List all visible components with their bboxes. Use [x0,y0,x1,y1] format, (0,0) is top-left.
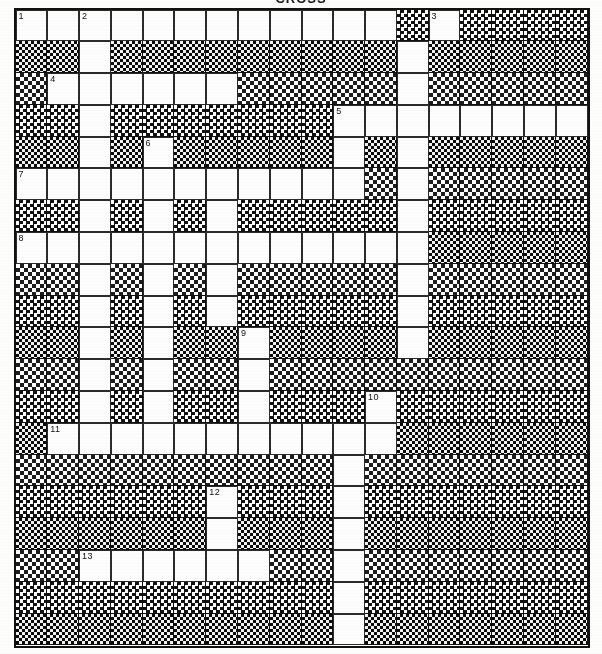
crossword-cell-open[interactable] [47,168,79,200]
crossword-cell-open[interactable] [79,327,111,359]
crossword-cell-open[interactable] [492,105,524,137]
crossword-cell-open[interactable] [238,168,270,200]
crossword-cell-open[interactable] [556,105,588,137]
crossword-cell-open[interactable] [397,327,429,359]
crossword-cell-open[interactable]: 6 [143,137,175,169]
crossword-cell-open[interactable] [206,232,238,264]
crossword-cell-open[interactable] [174,423,206,455]
crossword-cell-open[interactable] [143,232,175,264]
crossword-cell-open[interactable] [174,232,206,264]
crossword-cell-open[interactable] [174,168,206,200]
crossword-cell-open[interactable] [397,264,429,296]
crossword-cell-open[interactable] [79,423,111,455]
crossword-grid-container[interactable]: 12345678910111213 [14,8,590,648]
crossword-cell-open[interactable] [397,41,429,73]
crossword-cell-open[interactable]: 9 [238,327,270,359]
crossword-cell-open[interactable] [333,614,365,646]
crossword-cell-open[interactable]: 7 [16,168,48,200]
crossword-cell-open[interactable] [302,168,334,200]
crossword-cell-open[interactable] [111,73,143,105]
crossword-cell-open[interactable] [302,10,334,42]
crossword-cell-open[interactable] [143,73,175,105]
crossword-cell-open[interactable] [206,10,238,42]
crossword-cell-open[interactable] [206,200,238,232]
crossword-cell-open[interactable] [143,359,175,391]
crossword-cell-open[interactable] [111,423,143,455]
crossword-cell-open[interactable] [397,105,429,137]
crossword-cell-open[interactable] [333,582,365,614]
crossword-cell-open[interactable] [238,359,270,391]
crossword-cell-open[interactable] [238,550,270,582]
crossword-cell-open[interactable] [333,168,365,200]
crossword-cell-open[interactable] [365,10,397,42]
crossword-cell-open[interactable] [47,10,79,42]
crossword-cell-open[interactable] [174,10,206,42]
crossword-cell-open[interactable] [79,264,111,296]
crossword-cell-open[interactable] [333,455,365,487]
crossword-cell-open[interactable] [111,168,143,200]
crossword-cell-open[interactable]: 1 [16,10,48,42]
crossword-cell-open[interactable] [397,73,429,105]
crossword-cell-open[interactable]: 2 [79,10,111,42]
crossword-cell-open[interactable]: 11 [47,423,79,455]
crossword-cell-open[interactable] [143,264,175,296]
crossword-cell-open[interactable] [174,73,206,105]
crossword-cell-open[interactable] [143,423,175,455]
crossword-cell-open[interactable] [270,232,302,264]
crossword-cell-open[interactable]: 13 [79,550,111,582]
crossword-cell-open[interactable] [333,518,365,550]
crossword-cell-open[interactable] [206,264,238,296]
crossword-cell-open[interactable] [174,550,206,582]
crossword-cell-open[interactable] [143,391,175,423]
crossword-cell-open[interactable] [365,423,397,455]
crossword-cell-open[interactable] [47,232,79,264]
crossword-cell-open[interactable] [333,137,365,169]
crossword-cell-open[interactable] [365,232,397,264]
crossword-cell-open[interactable]: 12 [206,486,238,518]
crossword-cell-open[interactable] [206,168,238,200]
crossword-cell-open[interactable] [79,73,111,105]
crossword-cell-open[interactable] [206,73,238,105]
crossword-cell-open[interactable] [143,550,175,582]
crossword-grid[interactable]: 12345678910111213 [16,10,588,646]
crossword-cell-open[interactable] [79,391,111,423]
crossword-cell-open[interactable] [111,232,143,264]
crossword-cell-open[interactable]: 5 [333,105,365,137]
crossword-cell-open[interactable] [206,518,238,550]
crossword-cell-open[interactable] [79,232,111,264]
crossword-cell-open[interactable] [238,232,270,264]
crossword-cell-open[interactable] [397,296,429,328]
crossword-cell-open[interactable] [143,327,175,359]
crossword-cell-open[interactable] [397,200,429,232]
crossword-cell-open[interactable] [206,423,238,455]
crossword-cell-open[interactable] [79,137,111,169]
crossword-cell-open[interactable] [365,105,397,137]
crossword-cell-open[interactable] [238,10,270,42]
crossword-cell-open[interactable] [79,168,111,200]
crossword-cell-open[interactable] [524,105,556,137]
crossword-cell-open[interactable] [333,10,365,42]
crossword-cell-open[interactable] [238,423,270,455]
crossword-cell-open[interactable]: 8 [16,232,48,264]
crossword-cell-open[interactable] [79,359,111,391]
crossword-cell-open[interactable] [270,423,302,455]
crossword-cell-open[interactable] [143,200,175,232]
crossword-cell-open[interactable] [111,10,143,42]
crossword-cell-open[interactable] [333,550,365,582]
crossword-cell-open[interactable]: 10 [365,391,397,423]
crossword-cell-open[interactable] [79,200,111,232]
crossword-cell-open[interactable] [397,232,429,264]
crossword-cell-open[interactable] [429,105,461,137]
crossword-cell-open[interactable] [143,10,175,42]
crossword-cell-open[interactable] [397,168,429,200]
crossword-cell-open[interactable] [460,105,492,137]
crossword-cell-open[interactable] [206,296,238,328]
crossword-cell-open[interactable] [333,486,365,518]
crossword-cell-open[interactable] [143,296,175,328]
crossword-cell-open[interactable]: 4 [47,73,79,105]
crossword-cell-open[interactable] [270,10,302,42]
crossword-cell-open[interactable] [79,41,111,73]
crossword-cell-open[interactable] [333,232,365,264]
crossword-cell-open[interactable] [302,423,334,455]
crossword-cell-open[interactable] [397,137,429,169]
